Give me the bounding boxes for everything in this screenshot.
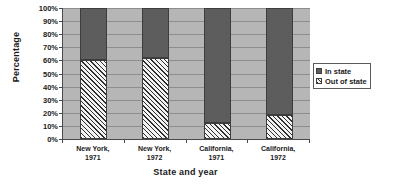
bar-group[interactable] (266, 8, 293, 139)
y-axis-title: Percentage (11, 17, 21, 97)
x-axis-tick-label-line: California, (247, 144, 309, 153)
y-axis-tick-label: 10% (27, 121, 58, 130)
x-axis-tick-label: California,1971 (186, 144, 248, 162)
legend-label: In state (325, 67, 351, 76)
y-axis-tick-label: 90% (27, 17, 58, 26)
x-axis-tick-label: New York,1972 (124, 144, 186, 162)
bar-segment-in-state[interactable] (204, 8, 231, 123)
y-axis-tick-label: 50% (27, 69, 58, 78)
chart-legend: In stateOut of state (313, 63, 371, 89)
bar-segment-in-state[interactable] (266, 8, 293, 115)
x-axis-tick-mark (124, 139, 125, 143)
bar-segment-in-state[interactable] (142, 8, 169, 58)
y-axis-tick-mark (59, 87, 63, 88)
y-axis-tick-mark (59, 34, 63, 35)
legend-swatch-in-state-icon (316, 68, 322, 74)
x-axis-tick-label-line: California, (186, 144, 248, 153)
legend-item[interactable]: In state (316, 66, 367, 76)
x-axis-tick-mark (247, 139, 248, 143)
y-axis-tick-mark (59, 8, 63, 9)
y-axis-tick-label: 30% (27, 95, 58, 104)
bar-group[interactable] (142, 8, 169, 139)
y-axis-tick-label: 0% (27, 135, 58, 144)
bars-layer (63, 8, 310, 139)
x-axis-tick-label: California,1972 (247, 144, 309, 162)
x-axis-title: State and year (62, 167, 309, 177)
x-axis-tick-label-line: New York, (62, 144, 124, 153)
y-axis-tick-labels: 0%10%20%30%40%50%60%70%80%90%100% (27, 8, 58, 139)
bar-segment-out-of-state[interactable] (204, 123, 231, 139)
legend-item[interactable]: Out of state (316, 76, 367, 86)
x-axis-tick-label-line: 1972 (247, 153, 309, 162)
bar-segment-in-state[interactable] (80, 8, 107, 60)
legend-label: Out of state (325, 77, 367, 86)
x-axis-tick-mark (309, 139, 310, 143)
bar-segment-out-of-state[interactable] (80, 60, 107, 139)
y-axis-tick-label: 20% (27, 108, 58, 117)
bar-group[interactable] (80, 8, 107, 139)
stacked-bar-chart: Percentage 0%10%20%30%40%50%60%70%80%90%… (0, 0, 393, 192)
x-axis-tick-label-line: New York, (124, 144, 186, 153)
y-axis-tick-mark (59, 47, 63, 48)
y-axis-tick-mark (59, 126, 63, 127)
plot-area (62, 8, 310, 140)
legend-swatch-out-of-state-icon (316, 78, 322, 84)
y-axis-tick-mark (59, 21, 63, 22)
y-axis-tick-mark (59, 60, 63, 61)
x-axis-tick-label-line: 1971 (62, 153, 124, 162)
bar-segment-out-of-state[interactable] (142, 58, 169, 139)
y-axis-tick-mark (59, 113, 63, 114)
y-axis-tick-label: 100% (27, 4, 58, 13)
x-axis-tick-labels: New York,1971New York,1972California,197… (62, 144, 309, 166)
y-axis-tick-mark (59, 100, 63, 101)
x-axis-tick-label-line: 1971 (186, 153, 248, 162)
y-axis-tick-label: 80% (27, 30, 58, 39)
y-axis-tick-label: 40% (27, 82, 58, 91)
bar-group[interactable] (204, 8, 231, 139)
y-axis-tick-mark (59, 74, 63, 75)
y-axis-tick-label: 70% (27, 43, 58, 52)
x-axis-tick-mark (186, 139, 187, 143)
x-axis-tick-label: New York,1971 (62, 144, 124, 162)
bar-segment-out-of-state[interactable] (266, 115, 293, 139)
y-axis-tick-label: 60% (27, 56, 58, 65)
x-axis-tick-label-line: 1972 (124, 153, 186, 162)
y-axis-tick-mark (59, 139, 63, 140)
